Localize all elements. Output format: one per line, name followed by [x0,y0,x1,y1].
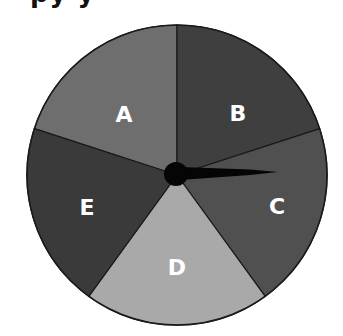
section-label-b: B [230,101,247,126]
section-label-e: E [79,195,94,220]
spinner: A B C D E [0,0,343,336]
spinner-hub-icon [164,162,188,186]
section-label-d: D [168,255,186,280]
section-label-c: C [269,194,285,219]
section-label-a: A [115,102,132,127]
